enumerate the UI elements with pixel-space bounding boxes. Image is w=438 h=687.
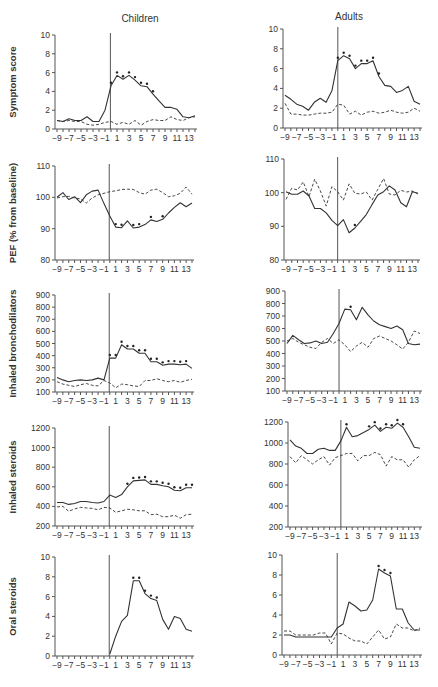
significance-marker [150, 480, 152, 482]
y-tick-label: 6 [273, 64, 278, 74]
x-tick-label: 9 [389, 395, 394, 405]
significance-marker [138, 223, 140, 225]
x-tick-label: 1 [341, 264, 346, 274]
panel-children-pef: 8090100110−9−7−5−3−1135791113PEF (% from… [7, 161, 194, 274]
significance-marker [185, 484, 187, 486]
series-solid [287, 307, 420, 345]
y-tick-label: 1200 [264, 417, 283, 427]
series-dashed [286, 179, 418, 207]
x-tick-label: 11 [170, 264, 179, 274]
significance-marker [345, 423, 347, 425]
x-tick-label: 7 [151, 133, 156, 143]
significance-marker [138, 476, 140, 478]
y-tick-label: 600 [36, 482, 50, 492]
x-tick-label: −5 [76, 133, 86, 143]
x-tick-label: 3 [353, 132, 358, 142]
panel-adults-inhaled-bronchodilators: 100200300400500600700800900−9−7−5−3−1135… [266, 286, 422, 405]
x-tick-label: −7 [296, 531, 306, 541]
series-solid [57, 190, 192, 228]
y-tick-label: 400 [36, 501, 50, 511]
x-tick-label: −5 [76, 660, 86, 670]
significance-marker [348, 55, 350, 57]
y-tick-label: 110 [265, 154, 279, 164]
y-tick-label: 1200 [31, 423, 50, 433]
y-tick-label: 800 [269, 459, 283, 469]
x-tick-label: 5 [137, 660, 142, 670]
panel-adults-symptom-score: 0246810−9−7−5−3−1135791113 [269, 24, 422, 142]
x-tick-label: 5 [366, 395, 371, 405]
x-tick-label: −9 [52, 660, 62, 670]
series-solid [57, 345, 192, 382]
significance-marker [146, 83, 148, 85]
x-tick-label: 13 [184, 133, 194, 143]
x-tick-label: −7 [64, 660, 74, 670]
significance-marker [156, 480, 158, 482]
figure: Children Adults 0246810−9−7−5−3−11357911… [0, 0, 438, 687]
significance-marker [156, 357, 158, 359]
x-tick-label: 3 [127, 133, 132, 143]
significance-marker [368, 425, 370, 427]
x-tick-label: 3 [125, 264, 130, 274]
column-title-children: Children [121, 13, 158, 24]
significance-marker [116, 71, 118, 73]
x-tick-label: 11 [173, 133, 182, 143]
x-tick-label: −7 [293, 264, 303, 274]
x-tick-label: −5 [303, 659, 313, 669]
y-tick-label: 80 [41, 255, 51, 265]
x-tick-label: 1 [113, 660, 118, 670]
y-tick-label: 700 [266, 311, 280, 321]
y-axis-label: PEF (% from baseline) [7, 163, 18, 263]
y-tick-label: 200 [266, 374, 280, 384]
x-tick-label: 9 [388, 659, 393, 669]
significance-marker [126, 345, 128, 347]
x-tick-label: −3 [316, 264, 326, 274]
x-tick-label: 5 [137, 396, 142, 406]
y-tick-label: 10 [268, 550, 278, 560]
x-tick-label: 11 [398, 659, 407, 669]
x-tick-label: 13 [408, 264, 418, 274]
x-tick-label: 9 [160, 530, 165, 540]
significance-marker [144, 349, 146, 351]
series-solid [285, 56, 420, 110]
x-tick-label: 3 [354, 395, 359, 405]
x-tick-label: −3 [87, 396, 97, 406]
series-dashed [57, 506, 192, 518]
x-tick-label: 5 [364, 264, 369, 274]
x-tick-label: 9 [389, 531, 394, 541]
x-tick-label: −1 [99, 530, 109, 540]
y-tick-label: 100 [266, 386, 280, 396]
y-tick-label: 900 [266, 286, 280, 296]
y-tick-label: 500 [36, 339, 50, 349]
x-tick-label: 9 [163, 133, 168, 143]
x-tick-label: 11 [398, 132, 407, 142]
x-tick-label: 3 [125, 660, 130, 670]
x-tick-label: −7 [64, 530, 74, 540]
x-tick-label: −5 [308, 531, 318, 541]
significance-marker [378, 72, 380, 74]
y-tick-label: 4 [272, 610, 277, 620]
significance-marker [120, 341, 122, 343]
x-tick-label: −9 [280, 132, 290, 142]
y-tick-label: 0 [272, 650, 277, 660]
significance-marker [191, 484, 193, 486]
y-tick-label: 400 [266, 349, 280, 359]
significance-marker [128, 71, 130, 73]
x-tick-label: −7 [294, 395, 304, 405]
y-tick-label: 6 [45, 68, 50, 78]
x-tick-label: 9 [387, 264, 392, 274]
x-tick-label: 5 [365, 132, 370, 142]
x-tick-label: −7 [64, 133, 74, 143]
x-tick-label: −3 [88, 133, 98, 143]
x-tick-label: 5 [137, 530, 142, 540]
x-tick-label: 9 [160, 264, 165, 274]
y-tick-label: 80 [270, 255, 280, 265]
y-tick-label: 4 [45, 86, 50, 96]
x-tick-label: 3 [355, 531, 360, 541]
significance-marker [402, 423, 404, 425]
y-tick-label: 2 [272, 630, 277, 640]
y-tick-label: 600 [36, 326, 50, 336]
x-tick-label: −3 [319, 531, 329, 541]
panel-children-inhaled-bronchodilators: 100200300400500600700800900−9−7−5−3−1135… [7, 289, 194, 406]
significance-marker [109, 354, 111, 356]
series-dashed [290, 452, 420, 467]
